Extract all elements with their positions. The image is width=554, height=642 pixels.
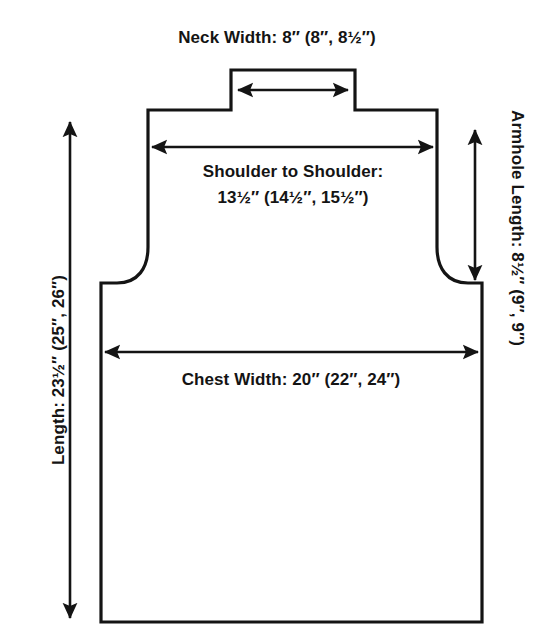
shoulder-to-shoulder-label-line2: 13½″ (14½″, 15½″) xyxy=(128,188,458,208)
garment-schematic-diagram: Neck Width: 8″ (8″, 8½″) Shoulder to Sho… xyxy=(0,0,554,642)
shoulder-to-shoulder-label: Shoulder to Shoulder: 13½″ (14½″, 15½″) xyxy=(128,162,458,208)
armhole-length-label: Armhole Length: 8½″ (9″, 9″) xyxy=(507,18,527,438)
length-label: Length: 23½″ (25″, 26″) xyxy=(49,160,69,580)
shoulder-to-shoulder-label-line1: Shoulder to Shoulder: xyxy=(203,162,384,181)
schematic-drawing xyxy=(0,0,554,642)
chest-width-label: Chest Width: 20″ (22″, 24″) xyxy=(96,370,486,390)
neck-width-label: Neck Width: 8″ (8″, 8½″) xyxy=(0,28,554,48)
garment-outline xyxy=(101,70,482,622)
